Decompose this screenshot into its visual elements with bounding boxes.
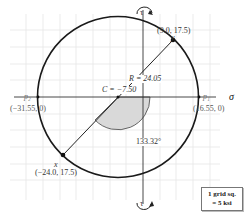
center-label: C = −7.50 <box>101 86 137 94</box>
p1-coords: (16.55, 0) <box>193 105 224 113</box>
scale-legend: 1 grid sq. = 5 ksi <box>201 187 243 211</box>
point-y-label: y <box>171 34 175 42</box>
sigma-label: σ <box>229 92 234 102</box>
point-x <box>61 153 66 158</box>
tau-label-bottom: τ <box>140 200 143 208</box>
angle-label: 133.32° <box>135 138 162 146</box>
legend-line-2: = 5 ksi <box>202 199 242 208</box>
p2-label: p₂ <box>24 93 31 101</box>
p2-coords: (−31.55, 0) <box>10 105 46 113</box>
arrowhead-bottom-icon <box>149 201 154 207</box>
point-x-coords: (−24.0, 17.5) <box>35 169 77 177</box>
legend-line-1: 1 grid sq. <box>202 190 242 199</box>
tau-label-top: τ <box>140 9 143 17</box>
p1-label: p₁ <box>203 93 210 101</box>
point-center <box>117 96 120 99</box>
point-p1 <box>198 96 201 99</box>
radius-label: R = 24.05 <box>128 75 162 83</box>
point-p2 <box>37 96 40 99</box>
